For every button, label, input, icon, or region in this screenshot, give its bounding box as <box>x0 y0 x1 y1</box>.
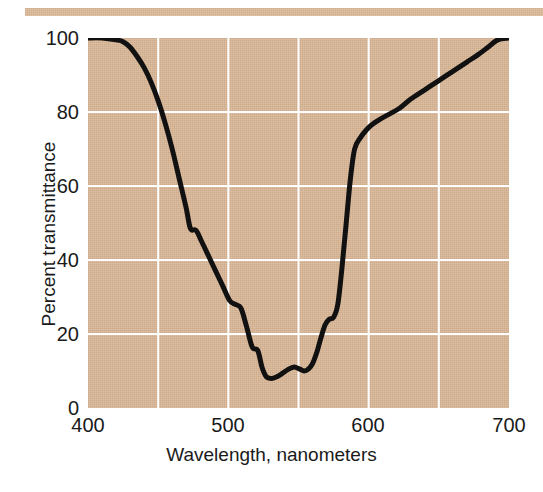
y-tick-100: 100 <box>46 28 79 48</box>
y-tick-80: 80 <box>57 102 79 122</box>
x-tick-700: 700 <box>492 415 525 435</box>
gridlines <box>88 38 509 408</box>
transmittance-curve-svg <box>88 38 509 408</box>
y-tick-40: 40 <box>57 250 79 270</box>
y-tick-60: 60 <box>57 176 79 196</box>
transmittance-figure: 100 80 60 40 20 0 Percent transmittance … <box>0 0 543 492</box>
x-tick-400: 400 <box>71 415 104 435</box>
plot-area <box>88 38 509 408</box>
x-axis-title: Wavelength, nanometers <box>0 444 543 466</box>
x-tick-500: 500 <box>211 415 244 435</box>
y-tick-20: 20 <box>57 324 79 344</box>
decorative-top-rule <box>25 8 543 16</box>
y-axis-title: Percent transmittance <box>38 89 60 379</box>
x-tick-600: 600 <box>351 415 384 435</box>
